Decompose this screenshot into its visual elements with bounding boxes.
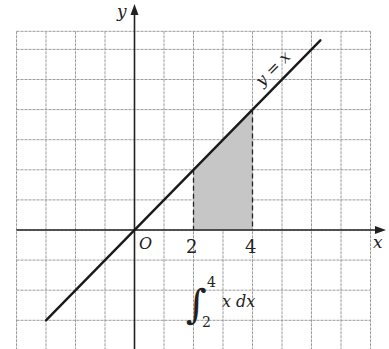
function-label: y = x	[251, 47, 295, 91]
integral-lower-limit: 2	[202, 314, 211, 330]
x-axis-label: x	[373, 232, 383, 252]
coordinate-plane-diagram: y x O 2 4 y = x ∫ 4 2 x dx	[0, 0, 389, 349]
y-axis-label: y	[116, 1, 127, 21]
origin-label: O	[139, 234, 152, 253]
function-line-y-equals-x	[46, 40, 320, 320]
tick-label-2: 2	[186, 236, 197, 257]
integral-upper-limit: 4	[207, 274, 216, 290]
integral-integrand: x dx	[222, 292, 255, 311]
tick-label-4: 4	[245, 236, 256, 257]
y-axis-arrow-icon	[131, 4, 139, 15]
